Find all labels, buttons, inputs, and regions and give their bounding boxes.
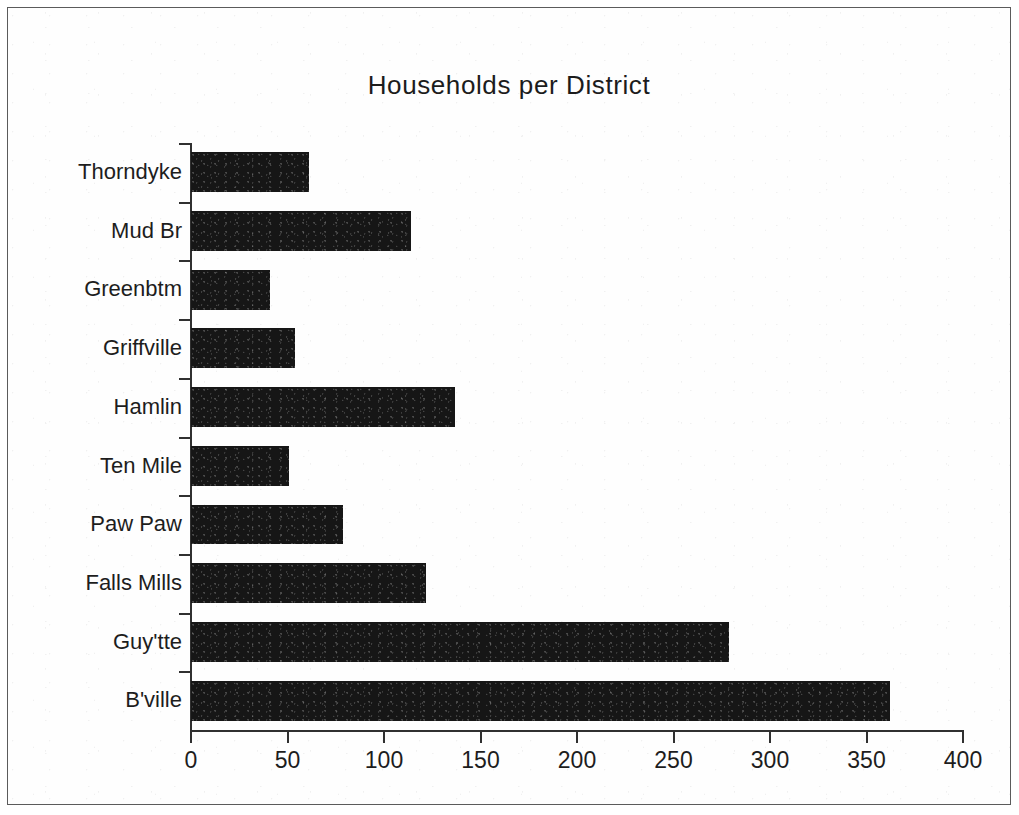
y-axis-label: Thorndyke [16, 143, 182, 202]
bar-row [191, 613, 963, 672]
y-axis-label: Griffville [16, 319, 182, 378]
y-axis-label: B'ville [16, 671, 182, 730]
bar [191, 270, 270, 310]
bar [191, 387, 455, 427]
x-axis-tick [866, 730, 868, 743]
x-axis-tick [287, 730, 289, 743]
x-axis-tick [383, 730, 385, 743]
bar-row [191, 554, 963, 613]
chart-title: Households per District [8, 70, 1010, 101]
x-axis-label: 100 [365, 747, 403, 774]
bar [191, 446, 289, 486]
x-axis-tick [769, 730, 771, 743]
x-axis-label: 250 [654, 747, 692, 774]
bar-row [191, 319, 963, 378]
bar [191, 622, 729, 662]
y-axis-labels: ThorndykeMud BrGreenbtmGriffvilleHamlinT… [16, 143, 182, 730]
bar [191, 211, 411, 251]
bar-row [191, 202, 963, 261]
bar-row [191, 143, 963, 202]
plot-area: ThorndykeMud BrGreenbtmGriffvilleHamlinT… [191, 143, 963, 730]
bar [191, 328, 295, 368]
y-axis-label: Falls Mills [16, 554, 182, 613]
x-axis-label: 200 [558, 747, 596, 774]
x-axis-tick [962, 730, 964, 743]
bar [191, 152, 309, 192]
y-axis-label: Greenbtm [16, 260, 182, 319]
bar-row [191, 260, 963, 319]
y-axis-label: Ten Mile [16, 437, 182, 496]
y-axis-label: Hamlin [16, 378, 182, 437]
bar [191, 563, 426, 603]
x-axis-label: 50 [275, 747, 301, 774]
bar-row [191, 437, 963, 496]
y-axis-label: Paw Paw [16, 495, 182, 554]
y-axis-label: Mud Br [16, 202, 182, 261]
bar-row [191, 495, 963, 554]
chart-page-frame: Households per District ThorndykeMud BrG… [7, 7, 1011, 805]
x-axis-label: 350 [847, 747, 885, 774]
x-axis-tick [190, 730, 192, 743]
bar [191, 681, 890, 721]
x-axis-tick [673, 730, 675, 743]
y-axis-label: Guy'tte [16, 613, 182, 672]
bar [191, 505, 343, 545]
x-axis-label: 400 [944, 747, 982, 774]
x-axis-label: 150 [461, 747, 499, 774]
bar-row [191, 671, 963, 730]
bar-row [191, 378, 963, 437]
x-axis-tick [480, 730, 482, 743]
x-axis-tick [576, 730, 578, 743]
x-axis-label: 300 [751, 747, 789, 774]
x-axis-label: 0 [185, 747, 198, 774]
